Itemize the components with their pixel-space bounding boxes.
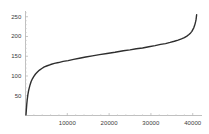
plot-area: [0, 0, 209, 134]
y-tick-label: 200: [0, 33, 22, 40]
y-tick-label: 250: [0, 13, 22, 20]
y-tick-label: 100: [0, 72, 22, 79]
x-tick-label: 10000: [59, 120, 76, 127]
x-tick-label: 30000: [142, 120, 159, 127]
axis-group: [25, 11, 202, 116]
x-tick-label: 40000: [184, 120, 201, 127]
y-tick-label: 150: [0, 53, 22, 60]
y-tick-label: 50: [0, 92, 22, 99]
line-chart: 50100150200250 10000200003000040000: [0, 0, 209, 134]
x-tick-label: 20000: [101, 120, 118, 127]
data-series-line: [26, 15, 197, 115]
